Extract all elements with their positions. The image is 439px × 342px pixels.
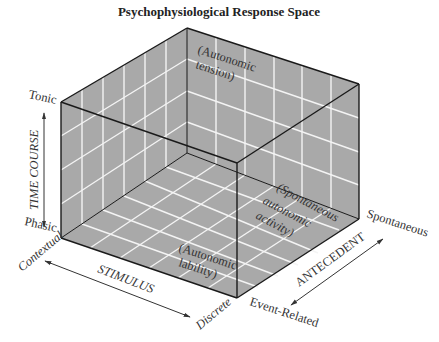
event-related-label: Event-Related (248, 295, 321, 331)
contextual-label: Contextual (15, 228, 66, 274)
response-space-diagram: Psychophysiological Response Space (0, 0, 439, 342)
diagram-title: Psychophysiological Response Space (118, 4, 320, 19)
tonic-label: Tonic (27, 87, 58, 107)
spontaneous-label: Spontaneous (365, 207, 430, 240)
time-course-label: TIME COURSE (27, 130, 41, 211)
discrete-label: Discrete (192, 294, 234, 333)
time-course-axis: Tonic Phasic TIME COURSE (23, 87, 58, 235)
